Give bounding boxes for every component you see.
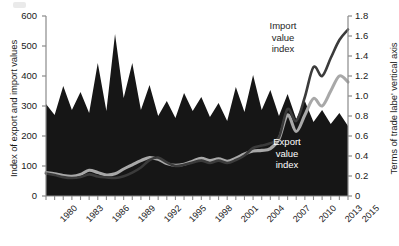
y-axis-right-tick-label: 1.2 (355, 70, 385, 81)
y-axis-right-tick-label: 0.8 (355, 110, 385, 121)
y-axis-right-tick-label: 1.4 (355, 50, 385, 61)
y-axis-left-tick-label: 400 (7, 70, 37, 81)
y-axis-right-tick-label: 1.0 (355, 90, 385, 101)
y-axis-left-tick-label: 500 (7, 40, 37, 51)
annotation-line: value (256, 148, 318, 160)
annotation-line: Export (256, 136, 318, 148)
annotation-line: Terms of (112, 58, 190, 70)
import-value-index-label: Importvalueindex (252, 20, 314, 55)
y-axis-left-tick-label: 600 (7, 10, 37, 21)
y-axis-right-tick-label: 0.4 (355, 150, 385, 161)
y-axis-right-tick-label: 0.2 (355, 170, 385, 181)
y-axis-right-tick-label: 0.6 (355, 130, 385, 141)
y-axis-right-tick-label: 1.8 (355, 10, 385, 21)
y-axis-left-tick-label: 200 (7, 130, 37, 141)
y-axis-left-tick-label: 0 (7, 190, 37, 201)
y-axis-right-tick-label: 1.6 (355, 30, 385, 41)
annotation-line: index (256, 159, 318, 171)
annotation-line: trade (112, 70, 190, 82)
y-axis-right-tick-label: 0 (355, 190, 385, 201)
annotation-line: value (252, 32, 314, 44)
y-axis-left-tick-label: 100 (7, 160, 37, 171)
annotation-line: index (252, 43, 314, 55)
y-axis-left-tick-label: 300 (7, 100, 37, 111)
terms-of-trade-label: Terms oftrade (112, 58, 190, 81)
annotation-line: Import (252, 20, 314, 32)
export-value-index-label: Exportvalueindex (256, 136, 318, 171)
